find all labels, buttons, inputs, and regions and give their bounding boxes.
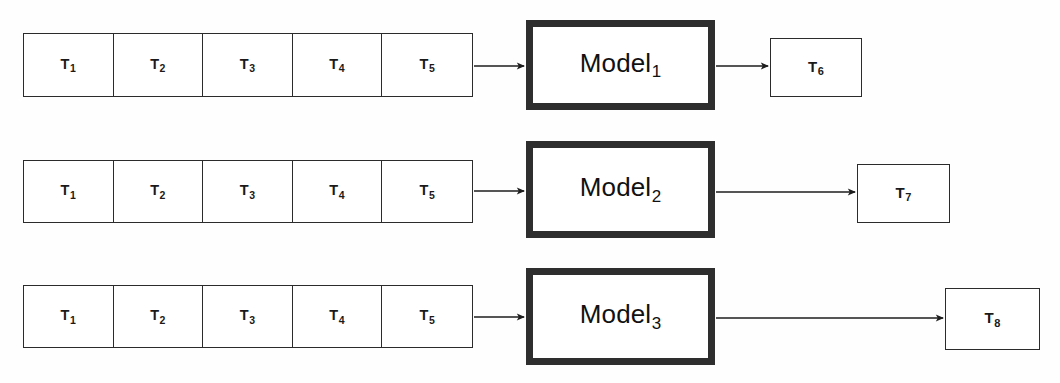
model-label: Model2 [580,172,661,207]
token-subscript: 1 [70,314,76,326]
token-base: T [150,182,159,198]
token-base: T [895,184,904,201]
token-label: T1 [61,182,77,200]
sequential-model-diagram: T1 T2 T3 T4 T5 Model1 [0,0,1060,383]
token-subscript: 3 [249,189,255,201]
model-subscript: 2 [652,187,661,206]
token-base: T [329,182,338,198]
token-subscript: 6 [818,65,824,77]
token-label: T3 [240,182,256,200]
model-label: Model1 [580,48,661,83]
model-name: Model [580,299,651,329]
token-cell: T5 [382,161,472,222]
token-subscript: 4 [339,189,345,201]
token-cell: T2 [114,34,204,96]
output-token-box-1: T6 [770,38,862,97]
token-base: T [240,56,249,72]
token-subscript: 8 [994,317,1000,329]
token-subscript: 3 [249,62,255,74]
token-label: T5 [419,56,435,74]
token-cell: T5 [382,286,472,347]
token-cell: T3 [203,34,293,96]
token-label: T1 [61,307,77,325]
token-label: T2 [150,182,166,200]
output-token-label: T8 [984,309,1000,329]
token-label: T2 [150,56,166,74]
token-base: T [419,182,428,198]
model-name: Model [580,48,651,78]
token-base: T [61,307,70,323]
token-subscript: 5 [429,314,435,326]
token-cell: T2 [114,286,204,347]
token-label: T3 [240,56,256,74]
token-subscript: 4 [339,314,345,326]
token-cell: T1 [24,286,114,347]
token-subscript: 1 [70,189,76,201]
model-label: Model3 [580,299,661,334]
output-token-label: T6 [808,58,824,78]
model-box-3: Model3 [526,268,715,365]
token-label: T4 [329,182,345,200]
token-base: T [61,56,70,72]
token-base: T [240,307,249,323]
token-base: T [61,182,70,198]
token-subscript: 5 [429,62,435,74]
token-label: T5 [419,307,435,325]
token-label: T3 [240,307,256,325]
token-base: T [329,307,338,323]
token-subscript: 7 [905,191,911,203]
token-base: T [419,307,428,323]
input-sequence-row-1: T1 T2 T3 T4 T5 [23,33,473,97]
model-name: Model [580,172,651,202]
token-cell: T1 [24,161,114,222]
token-subscript: 1 [70,62,76,74]
token-base: T [150,307,159,323]
token-label: T5 [419,182,435,200]
model-box-1: Model1 [526,20,715,110]
token-label: T4 [329,307,345,325]
token-base: T [419,56,428,72]
token-cell: T3 [203,286,293,347]
token-subscript: 2 [160,314,166,326]
output-token-box-3: T8 [945,288,1040,350]
token-subscript: 2 [160,62,166,74]
input-sequence-row-2: T1 T2 T3 T4 T5 [23,160,473,223]
model-subscript: 1 [652,62,661,81]
token-label: T2 [150,307,166,325]
input-sequence-row-3: T1 T2 T3 T4 T5 [23,285,473,348]
token-cell: T1 [24,34,114,96]
token-base: T [150,56,159,72]
model-box-2: Model2 [526,141,715,238]
token-cell: T3 [203,161,293,222]
token-subscript: 4 [339,62,345,74]
token-cell: T5 [382,34,472,96]
token-base: T [808,58,817,75]
token-subscript: 2 [160,189,166,201]
token-base: T [240,182,249,198]
token-cell: T4 [293,161,383,222]
token-base: T [984,309,993,326]
model-subscript: 3 [652,314,661,333]
output-token-label: T7 [895,184,911,204]
token-cell: T2 [114,161,204,222]
token-cell: T4 [293,34,383,96]
output-token-box-2: T7 [857,164,950,223]
token-base: T [329,56,338,72]
token-label: T4 [329,56,345,74]
token-cell: T4 [293,286,383,347]
token-label: T1 [61,56,77,74]
token-subscript: 3 [249,314,255,326]
token-subscript: 5 [429,189,435,201]
